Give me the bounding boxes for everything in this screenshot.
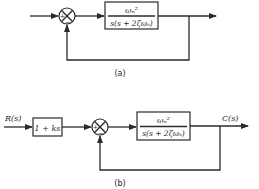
diagram-a: + − ωₙ² s(s + 2ζωₙ) (a) xyxy=(30,2,216,78)
plus-sign-b: + xyxy=(93,123,98,130)
minus-sign-b: − xyxy=(98,130,104,138)
forward-block-a: ωₙ² s(s + 2ζωₙ) xyxy=(105,2,158,29)
summing-junction-a: + − xyxy=(59,8,75,27)
minus-sign-a: − xyxy=(65,19,71,27)
block-denominator-b: s(s + 2ζωₙ) xyxy=(142,129,185,138)
block-diagrams: + − ωₙ² s(s + 2ζωₙ) (a) R(s) 1 + ks xyxy=(0,0,259,189)
prefilter-block-b: 1 + ks xyxy=(33,118,62,136)
diagram-b: R(s) 1 + ks + − ωₙ² s(s + 2ζωₙ) C( xyxy=(4,112,248,188)
block-denominator-a: s(s + 2ζωₙ) xyxy=(110,19,153,28)
forward-block-b: ωₙ² s(s + 2ζωₙ) xyxy=(137,112,190,140)
output-label-c: C(s) xyxy=(222,114,238,123)
input-label-r: R(s) xyxy=(4,114,21,123)
caption-b: (b) xyxy=(114,179,125,188)
block-numerator-b: ωₙ² xyxy=(157,116,170,125)
summing-junction-b: + − xyxy=(92,119,108,138)
plus-sign-a: + xyxy=(60,12,65,19)
prefilter-text: 1 + ks xyxy=(35,124,61,133)
block-numerator-a: ωₙ² xyxy=(125,6,138,15)
caption-a: (a) xyxy=(114,69,125,78)
